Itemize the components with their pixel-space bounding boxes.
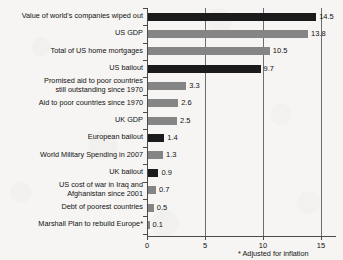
bar-value-label: 2.6 [181,99,191,107]
bar [148,221,150,229]
category-label: European bailout [1,133,143,142]
category-label: Value of world's companies wiped out [1,12,143,21]
bar [148,65,261,73]
y-tick [143,216,147,217]
x-axis-line [147,236,336,237]
category-label: Promised aid to poor countries still out… [1,77,143,94]
y-tick [143,112,147,113]
category-label: Marshall Plan to rebuild Europe* [1,220,143,229]
y-tick [143,199,147,200]
gridline-10 [263,8,264,236]
category-label: US bailout [1,64,143,73]
y-tick [143,129,147,130]
bar-value-label: 10.5 [273,47,288,55]
category-label: US GDP [1,29,143,38]
y-tick [143,234,147,235]
category-label: Total of US home mortgages [1,47,143,56]
bar [148,186,156,194]
x-tick-10 [263,236,264,240]
gridline-5 [205,8,206,236]
bar [148,99,178,107]
bar [148,134,164,142]
footnote: * Adjusted for inflation [238,249,309,258]
category-label: Debt of poorest countries [1,203,143,212]
y-tick [143,147,147,148]
bar [148,117,177,125]
bar-value-label: 3.3 [189,82,199,90]
bar-chart-figure: 051015Value of world's companies wiped o… [0,0,343,260]
gridline-15 [321,8,322,236]
bar [148,204,154,212]
bar-value-label: 1.3 [166,151,176,159]
category-label: World Military Spending in 2007 [1,151,143,160]
x-tick-0 [147,236,148,240]
bar-value-label: 9.7 [264,65,274,73]
bar [148,30,308,38]
y-tick [143,77,147,78]
x-tick-label-5: 5 [203,241,207,250]
bar-value-label: 1.4 [167,134,177,142]
bar-value-label: 13.8 [311,30,326,38]
plot-area: 051015Value of world's companies wiped o… [0,0,343,260]
y-tick [143,95,147,96]
bar-value-label: 0.1 [153,221,163,229]
bar [148,47,270,55]
x-tick-15 [321,236,322,240]
bar-value-label: 0.5 [157,204,167,212]
y-tick [143,164,147,165]
x-tick-5 [205,236,206,240]
y-tick [143,60,147,61]
x-tick-label-0: 0 [145,241,149,250]
bar-value-label: 0.9 [161,169,171,177]
category-label: UK bailout [1,168,143,177]
y-tick [143,182,147,183]
bar [148,169,158,177]
category-label: US cost of war in Iraq and Afghanistan s… [1,181,143,198]
y-tick [143,43,147,44]
x-tick-label-15: 15 [317,241,325,250]
bar-value-label: 0.7 [159,186,169,194]
bar-value-label: 2.5 [180,117,190,125]
category-label: UK GDP [1,116,143,125]
bar [148,82,186,90]
bar [148,151,163,159]
y-tick [143,8,147,9]
bar-value-label: 14.5 [319,13,334,21]
category-label: Aid to poor countries since 1970 [1,99,143,108]
y-tick [143,25,147,26]
bar [148,13,316,21]
